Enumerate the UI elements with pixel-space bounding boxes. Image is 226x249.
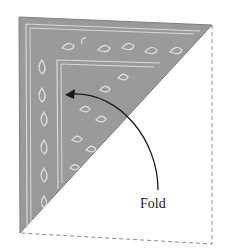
folded-bandana-triangle bbox=[19, 17, 212, 233]
fold-label: Fold bbox=[140, 196, 166, 212]
fold-diagram bbox=[0, 0, 226, 249]
